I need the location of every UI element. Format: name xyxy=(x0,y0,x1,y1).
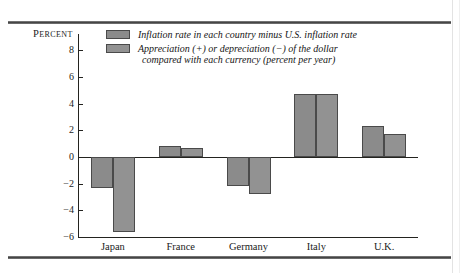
y-tick-label: −2 xyxy=(63,178,74,189)
bar-france-series1 xyxy=(181,148,203,157)
y-tick-mark xyxy=(78,184,83,185)
y-tick-label-wrap: 4 xyxy=(44,98,74,110)
y-tick-mark xyxy=(78,104,83,105)
legend-entry-0-line1: Inflation rate in each country minus U.S… xyxy=(138,29,357,40)
y-tick-label-wrap: 8 xyxy=(44,44,74,56)
bar-france-series0 xyxy=(159,146,181,157)
y-tick-mark xyxy=(78,77,83,78)
y-tick-label: 6 xyxy=(69,71,74,82)
plot-area: PERCENT 86420−2−4−6 JapanFranceGermanyIt… xyxy=(0,0,465,273)
x-axis-label-japan: Japan xyxy=(79,241,147,252)
y-axis-line xyxy=(78,34,79,237)
y-tick-label: −6 xyxy=(63,231,74,242)
bar-italy-series1 xyxy=(316,94,338,157)
bar-uk-series1 xyxy=(384,134,406,157)
y-tick-label-wrap: 2 xyxy=(44,124,74,136)
y-tick-label-wrap: −4 xyxy=(44,204,74,216)
y-tick-mark xyxy=(78,157,83,158)
x-axis-label-uk: U.K. xyxy=(350,241,418,252)
x-axis-line xyxy=(78,237,418,238)
legend-entry-0-label: Inflation rate in each country minus U.S… xyxy=(138,29,357,41)
bar-japan-series0 xyxy=(91,157,113,188)
y-tick-label-wrap: −2 xyxy=(44,178,74,190)
series-0-swatch xyxy=(106,30,130,39)
y-tick-label: 2 xyxy=(69,124,74,135)
y-axis-title: PERCENT xyxy=(33,28,73,39)
x-axis-label-germany: Germany xyxy=(215,241,283,252)
chart-figure: PERCENT 86420−2−4−6 JapanFranceGermanyIt… xyxy=(0,0,465,273)
bar-uk-series0 xyxy=(362,126,384,157)
y-tick-mark xyxy=(78,130,83,131)
y-tick-mark xyxy=(78,50,83,51)
y-tick-label-wrap: −6 xyxy=(44,231,74,243)
bar-germany-series1 xyxy=(249,157,271,194)
chart-legend: Inflation rate in each country minus U.S… xyxy=(106,29,357,68)
legend-entry-1-line2: compared with each currency (percent per… xyxy=(138,54,338,66)
y-tick-mark xyxy=(78,237,83,238)
y-tick-label: 0 xyxy=(69,151,74,162)
x-axis-label-italy: Italy xyxy=(282,241,350,252)
y-tick-label: 4 xyxy=(69,98,74,109)
legend-entry-1-label: Appreciation (+) or depreciation (−) of … xyxy=(138,43,338,66)
legend-entry-1: Appreciation (+) or depreciation (−) of … xyxy=(106,43,357,66)
y-tick-label: −4 xyxy=(63,204,74,215)
bar-italy-series0 xyxy=(294,94,316,157)
legend-entry-0: Inflation rate in each country minus U.S… xyxy=(106,29,357,41)
y-axis-title-rest: ERCENT xyxy=(39,30,73,39)
y-tick-label-wrap: 0 xyxy=(44,151,74,163)
series-1-swatch xyxy=(106,44,130,53)
y-tick-label-wrap: 6 xyxy=(44,71,74,83)
legend-entry-1-line1: Appreciation (+) or depreciation (−) of … xyxy=(138,43,338,54)
y-tick-label: 8 xyxy=(69,44,74,55)
y-tick-mark xyxy=(78,210,83,211)
bar-japan-series1 xyxy=(113,157,135,232)
bar-germany-series0 xyxy=(227,157,249,186)
x-axis-label-france: France xyxy=(147,241,215,252)
